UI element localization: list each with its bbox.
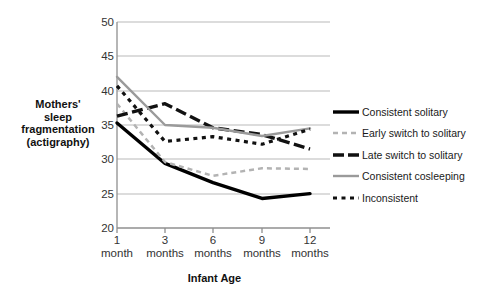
x-tick-12-months-unit: months (281, 247, 339, 260)
chart-figure: Mothers' sleep fragmentation (actigraphy… (0, 0, 494, 295)
legend-item-consistent-solitary[interactable]: Consistent solitary (333, 101, 493, 123)
legend-item-inconsistent[interactable]: Inconsistent (333, 187, 493, 209)
x-axis-title: Infant Age (117, 272, 312, 284)
legend-swatch-consistent-solitary (333, 105, 359, 119)
series-line-consistent-cosleeping (117, 77, 310, 136)
axis-lines (117, 22, 330, 233)
legend-item-consistent-cosleeping[interactable]: Consistent cosleeping (333, 166, 493, 188)
legend-label-early-switch-to-solitary: Early switch to solitary (362, 127, 466, 139)
legend-swatch-consistent-cosleeping (333, 169, 359, 183)
legend-swatch-late-switch-to-solitary (333, 148, 359, 162)
legend-swatch-inconsistent (333, 191, 359, 205)
legend-label-consistent-cosleeping: Consistent cosleeping (362, 170, 465, 182)
series-line-consistent-solitary (117, 123, 310, 199)
legend-swatch-early-switch-to-solitary (333, 126, 359, 140)
legend-item-late-switch-to-solitary[interactable]: Late switch to solitary (333, 144, 493, 166)
legend-label-late-switch-to-solitary: Late switch to solitary (362, 149, 462, 161)
legend-label-consistent-solitary: Consistent solitary (362, 106, 448, 118)
series-line-inconsistent (117, 86, 310, 144)
legend-label-inconsistent: Inconsistent (362, 192, 418, 204)
series-line-late-switch-to-solitary (117, 104, 310, 149)
chart-legend: Consistent solitary Early switch to soli… (333, 101, 493, 209)
x-tick-12-months-num: 12 (281, 234, 339, 247)
series-layer (117, 77, 310, 199)
legend-item-early-switch-to-solitary[interactable]: Early switch to solitary (333, 123, 493, 145)
x-tick-12-months: 12 months (281, 234, 339, 260)
